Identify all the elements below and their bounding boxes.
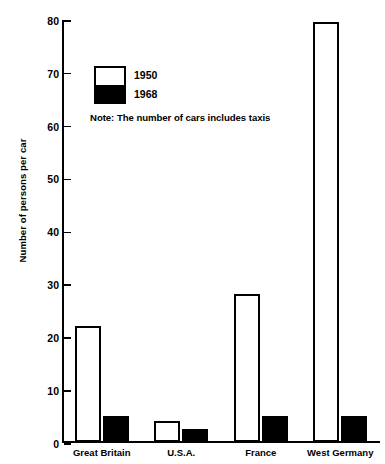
- y-axis-title: Number of persons per car: [17, 121, 28, 281]
- bar-1950-france: [234, 294, 260, 442]
- bar-1950-u-s-a: [154, 421, 180, 442]
- bar-1968-great-britain: [103, 416, 129, 442]
- y-tick-label-30: 30: [47, 280, 59, 291]
- bar-1968-west-germany: [341, 416, 367, 442]
- legend-swatch: [94, 66, 126, 104]
- legend-label-1968: 1968: [134, 89, 157, 100]
- bar-1968-france: [262, 416, 288, 442]
- x-label-west-germany: West Germany: [307, 448, 373, 458]
- y-tick-label-10: 10: [47, 386, 59, 397]
- y-tick-50: 50: [64, 179, 71, 181]
- x-label-great-britain: Great Britain: [73, 448, 131, 458]
- y-tick-30: 30: [64, 284, 71, 286]
- y-tick-label-70: 70: [47, 68, 59, 79]
- y-tick-label-50: 50: [47, 174, 59, 185]
- y-tick-label-80: 80: [47, 16, 59, 27]
- y-tick-20: 20: [64, 337, 71, 339]
- y-tick-60: 60: [64, 126, 71, 128]
- y-tick-label-40: 40: [47, 227, 59, 238]
- y-tick-label-20: 20: [47, 333, 59, 344]
- legend-swatch-1950: [96, 68, 124, 85]
- y-tick-label-60: 60: [47, 121, 59, 132]
- bar-chart: Number of persons per car 80706050403020…: [0, 0, 385, 464]
- y-tick-10: 10: [64, 390, 71, 392]
- bar-1950-great-britain: [75, 326, 101, 442]
- x-label-france: France: [245, 448, 276, 458]
- y-tick-40: 40: [64, 232, 71, 234]
- x-label-u-s-a: U.S.A.: [167, 448, 195, 458]
- y-tick-0: 0: [64, 443, 71, 445]
- legend-label-1950: 1950: [134, 70, 157, 81]
- bar-1950-west-germany: [313, 22, 339, 442]
- bar-1968-u-s-a: [182, 429, 208, 442]
- y-tick-70: 70: [64, 73, 71, 75]
- y-tick-label-0: 0: [53, 439, 59, 450]
- y-tick-80: 80: [64, 20, 71, 22]
- legend-swatch-1968: [96, 85, 124, 102]
- chart-note: Note: The number of cars includes taxis: [90, 112, 270, 123]
